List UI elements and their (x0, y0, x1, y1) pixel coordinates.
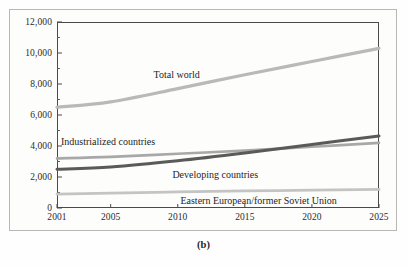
x-axis-tick-label: 2010 (168, 212, 187, 222)
figure-container: 02,0004,0006,0008,00010,00012,000 Total … (0, 0, 407, 266)
series-label: Eastern European/former Soviet Union (180, 195, 336, 206)
series-label: Total world (154, 69, 200, 80)
series-label: Industrialized countries (61, 136, 155, 147)
series-line (57, 189, 379, 194)
chart-lines-svg (0, 0, 407, 266)
figure-caption: (b) (0, 239, 407, 250)
x-axis-tick-label: 2005 (101, 212, 120, 222)
series-line (57, 48, 379, 107)
x-axis-tick-label: 2001 (47, 212, 66, 222)
x-axis-tick-label: 2015 (235, 212, 254, 222)
x-axis-tick-label: 2025 (369, 212, 388, 222)
series-label: Developing countries (172, 169, 258, 180)
x-axis-tick-label: 2020 (302, 212, 321, 222)
